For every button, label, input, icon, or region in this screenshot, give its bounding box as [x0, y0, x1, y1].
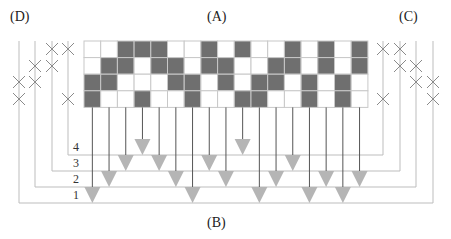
filled-cell [218, 58, 235, 75]
bus-number-4: 4 [73, 140, 79, 155]
filled-cell [335, 74, 352, 91]
empty-cell [201, 91, 218, 108]
filled-cell [151, 58, 168, 75]
filled-cell [151, 41, 168, 58]
empty-cell [251, 41, 268, 58]
label-B: (B) [207, 215, 226, 231]
down-triangle-icon [101, 171, 117, 187]
down-triangle-icon [285, 155, 301, 171]
empty-cell [134, 74, 151, 91]
filled-cell [117, 41, 134, 58]
empty-cell [218, 91, 235, 108]
down-triangle-icon [235, 139, 251, 155]
down-triangle-icon [301, 187, 317, 203]
empty-cell [284, 91, 301, 108]
empty-cell [318, 74, 335, 91]
filled-cell [184, 74, 201, 91]
filled-cell [284, 58, 301, 75]
filled-cell [168, 58, 185, 75]
down-triangle-icon [352, 171, 368, 187]
empty-cell [268, 41, 285, 58]
empty-cell [168, 41, 185, 58]
empty-cell [84, 58, 101, 75]
filled-cell [201, 41, 218, 58]
empty-cell [301, 58, 318, 75]
filled-cell [301, 91, 318, 108]
down-triangle-icon [84, 187, 100, 203]
empty-cell [234, 58, 251, 75]
bus-number-3: 3 [73, 156, 79, 171]
filled-cell [117, 58, 134, 75]
empty-cell [117, 74, 134, 91]
empty-cell [284, 74, 301, 91]
filled-cell [301, 74, 318, 91]
filled-cell [168, 74, 185, 91]
filled-cell [284, 41, 301, 58]
empty-cell [134, 58, 151, 75]
empty-cell [351, 91, 368, 108]
down-triangle-icon [318, 171, 334, 187]
label-A: (A) [207, 9, 226, 25]
down-triangle-icon [218, 171, 234, 187]
empty-cell [268, 91, 285, 108]
filled-cell [268, 74, 285, 91]
label-D: (D) [10, 9, 29, 25]
bus-number-2: 2 [73, 172, 79, 187]
empty-cell [251, 58, 268, 75]
filled-cell [101, 74, 118, 91]
empty-cell [218, 41, 235, 58]
empty-cell [101, 41, 118, 58]
down-triangle-icon [335, 187, 351, 203]
label-C: (C) [399, 9, 418, 25]
filled-cell [218, 74, 235, 91]
filled-cell [351, 41, 368, 58]
empty-cell [101, 91, 118, 108]
empty-cell [301, 41, 318, 58]
empty-cell [234, 74, 251, 91]
down-triangle-icon [251, 187, 267, 203]
filled-cell [268, 58, 285, 75]
empty-cell [151, 91, 168, 108]
filled-cell [318, 58, 335, 75]
empty-cell [184, 41, 201, 58]
empty-cell [84, 41, 101, 58]
filled-cell [84, 91, 101, 108]
down-triangle-icon [134, 139, 150, 155]
filled-cell [351, 58, 368, 75]
weave-grid [84, 41, 368, 107]
filled-cell [134, 91, 151, 108]
filled-cell [234, 41, 251, 58]
filled-cell [184, 91, 201, 108]
empty-cell [117, 91, 134, 108]
down-triangle-icon [268, 171, 284, 187]
down-triangle-icon [201, 155, 217, 171]
empty-cell [201, 74, 218, 91]
down-triangle-icon [185, 187, 201, 203]
filled-cell [101, 58, 118, 75]
filled-cell [134, 41, 151, 58]
empty-cell [184, 58, 201, 75]
weave-diagram [0, 0, 451, 239]
empty-cell [335, 41, 352, 58]
filled-cell [251, 74, 268, 91]
filled-cell [84, 74, 101, 91]
filled-cell [335, 91, 352, 108]
filled-cell [251, 91, 268, 108]
empty-cell [318, 91, 335, 108]
down-triangle-icon [151, 155, 167, 171]
empty-cell [151, 74, 168, 91]
down-triangle-icon [168, 171, 184, 187]
filled-cell [201, 58, 218, 75]
empty-cell [335, 58, 352, 75]
empty-cell [168, 91, 185, 108]
empty-cell [351, 74, 368, 91]
bus-number-1: 1 [73, 188, 79, 203]
filled-cell [234, 91, 251, 108]
filled-cell [318, 41, 335, 58]
down-triangle-icon [118, 155, 134, 171]
